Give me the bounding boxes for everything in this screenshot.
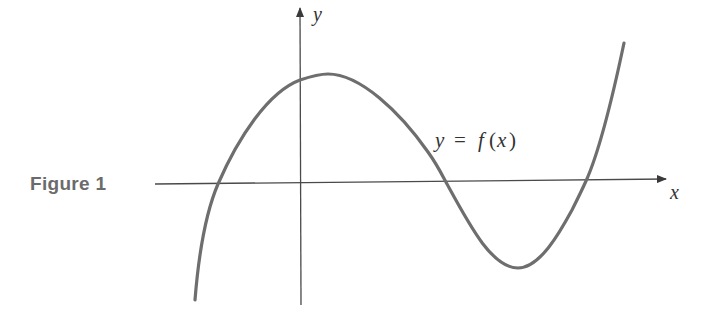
x-axis-label: x (669, 181, 679, 203)
svg-text:f: f (478, 128, 487, 152)
y-axis-label: y (311, 3, 322, 26)
svg-text:y: y (433, 128, 445, 152)
svg-text:=: = (454, 128, 466, 152)
svg-text:(: ( (489, 128, 496, 152)
svg-text:x: x (496, 128, 507, 152)
y-axis (300, 8, 301, 305)
curve-label: y = f ( x ) (433, 128, 516, 152)
svg-text:): ) (509, 128, 516, 152)
function-graph: y x y = f ( x ) (0, 0, 707, 323)
function-curve (195, 43, 624, 300)
x-axis (155, 179, 666, 184)
